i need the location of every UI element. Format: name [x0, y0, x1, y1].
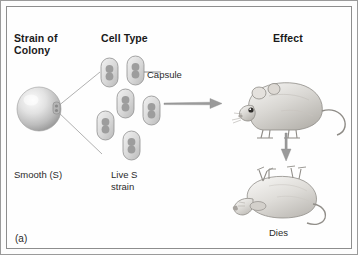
dead-mouse — [233, 166, 326, 224]
outcome-arrow — [281, 133, 291, 161]
label-smooth-s: Smooth (S) — [14, 169, 62, 181]
header-effect: Effect — [273, 32, 303, 44]
header-cell-type: Cell Type — [101, 32, 148, 44]
cell — [127, 56, 144, 85]
smooth-colony-sphere — [17, 87, 61, 131]
label-capsule: Capsule — [147, 69, 182, 81]
panel-label: (a) — [15, 233, 27, 245]
label-live-s-strain: Live S strain — [111, 169, 137, 193]
cell — [143, 96, 160, 125]
cell — [101, 58, 118, 87]
cell — [123, 131, 140, 160]
injection-arrow — [164, 99, 222, 109]
label-dies: Dies — [269, 227, 288, 239]
live-mouse — [232, 83, 345, 138]
cell — [117, 89, 134, 118]
colony-to-cells-connectors — [57, 72, 102, 154]
header-strain-of-colony: Strain of Colony — [14, 32, 58, 56]
cell — [97, 111, 114, 140]
figure-panel-a: Strain of Colony Cell Type Effect Capsul… — [0, 0, 358, 255]
